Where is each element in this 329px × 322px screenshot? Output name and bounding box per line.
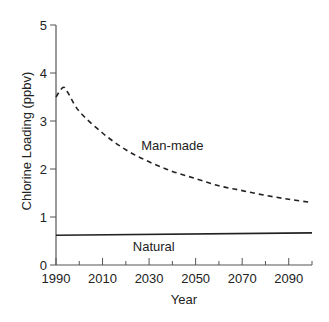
x-tick-label: 2010 xyxy=(88,271,117,286)
series-label-natural: Natural xyxy=(133,239,175,254)
series-group xyxy=(56,87,312,235)
y-tick-label: 1 xyxy=(40,210,47,225)
chlorine-loading-chart: 012345199020102030205020702090 Year Chlo… xyxy=(0,0,329,322)
series-label-man-made: Man-made xyxy=(141,138,203,153)
x-tick-label: 2030 xyxy=(135,271,164,286)
series-line-natural xyxy=(56,233,312,235)
x-tick-label: 2050 xyxy=(181,271,210,286)
y-tick-label: 5 xyxy=(40,18,47,33)
chart-canvas: 012345199020102030205020702090 Year Chlo… xyxy=(0,0,329,322)
x-tick-label: 2090 xyxy=(274,271,303,286)
x-tick-label: 2070 xyxy=(228,271,257,286)
x-axis-label: Year xyxy=(171,292,198,307)
y-tick-label: 3 xyxy=(40,114,47,129)
y-tick-label: 2 xyxy=(40,162,47,177)
x-tick-label: 1990 xyxy=(42,271,71,286)
y-tick-label: 4 xyxy=(40,66,47,81)
y-axis-label: Chlorine Loading (ppbv) xyxy=(19,72,34,211)
